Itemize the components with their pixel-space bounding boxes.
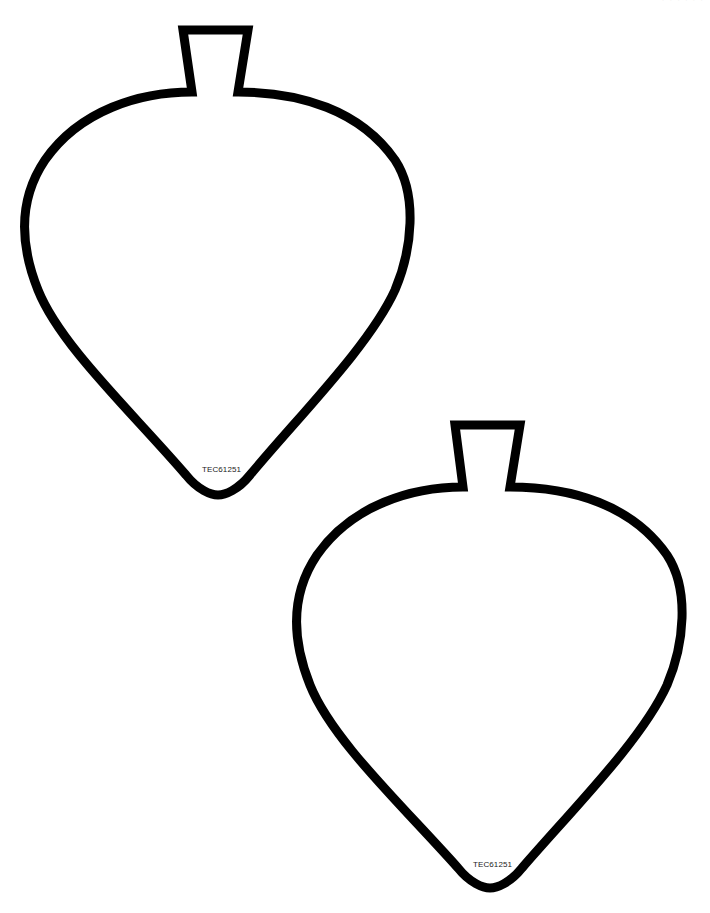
- product-code-label: TEC61251: [202, 465, 241, 474]
- ornament-shape-icon: [297, 425, 683, 888]
- template-page: · · · · · · TEC61251 TEC61251: [0, 0, 710, 913]
- ornament-outline-top-left: [25, 30, 411, 495]
- ornament-outline-bottom-right: [297, 425, 683, 888]
- ornament-shape-icon: [25, 30, 411, 495]
- product-code-label: TEC61251: [473, 860, 512, 869]
- ornament-shapes-canvas: [0, 0, 710, 913]
